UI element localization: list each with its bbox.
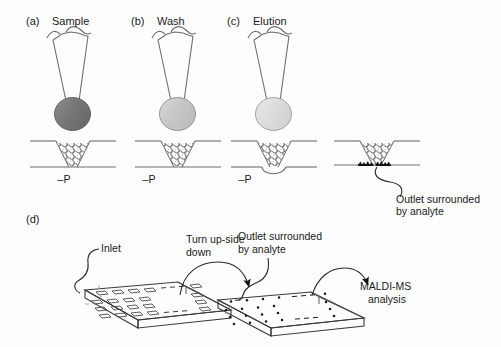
- microplate-inlet-side: [85, 282, 231, 328]
- turn-arrow: [180, 262, 249, 295]
- droplet-wash: [160, 98, 196, 131]
- outlet-plate-annotation-line2: by analyte: [238, 243, 286, 255]
- droplet-elution: [256, 98, 292, 131]
- well-row-4-ellipsis: [164, 311, 187, 313]
- figure-svg: –P (a) Sample: [0, 0, 501, 347]
- turn-label-line2: down: [186, 246, 211, 258]
- analyte-row-1-ellipsis: [292, 295, 315, 297]
- panel-a: –P (a) Sample: [26, 15, 116, 185]
- panel-tag-d: (d): [26, 213, 39, 225]
- pipette-a: [53, 32, 88, 101]
- panel-outlet-detail: Outlet surrounded by analyte: [334, 141, 480, 217]
- panel-tag-b: (b): [131, 15, 144, 27]
- panel-title-a: Sample: [52, 15, 89, 27]
- inlet-leader: [75, 249, 99, 293]
- droplet-sample: [55, 98, 91, 131]
- well-row-4: [99, 307, 211, 318]
- panel-d: (d): [26, 213, 411, 336]
- analyte-spot-row-3: [229, 308, 332, 319]
- figure-container: –P (a) Sample: [0, 0, 501, 347]
- pipette-c: [254, 32, 289, 101]
- panel-title-b: Wash: [157, 15, 185, 27]
- microplate-analyte-side: [218, 292, 364, 336]
- pressure-label-c: –P: [239, 173, 252, 185]
- maldi-label-line1: MALDI-MS: [360, 280, 411, 292]
- analyte-spot-row-2: [225, 301, 328, 312]
- panel-tag-a: (a): [26, 15, 39, 27]
- panel-title-c: Elution: [253, 15, 287, 27]
- pressure-label-b: –P: [143, 173, 156, 185]
- outlet-plate-leader: [235, 258, 269, 300]
- outlet-annotation-line1: Outlet surrounded: [396, 193, 480, 205]
- maldi-label-line2: analysis: [368, 293, 406, 305]
- pipette-b: [158, 32, 193, 101]
- turn-label-line1: Turn up-side: [186, 233, 245, 245]
- outlet-plate-annotation-line1: Outlet surrounded: [238, 230, 322, 242]
- pressure-label-a: –P: [58, 173, 71, 185]
- panel-tag-c: (c): [227, 15, 240, 27]
- inlet-label: Inlet: [101, 242, 121, 254]
- panel-b: –P (b) Wash: [131, 15, 221, 185]
- panel-c: –P (c) Elution: [227, 15, 317, 185]
- analyte-row-4-ellipsis: [295, 317, 318, 319]
- outlet-annotation-line2: by analyte: [396, 205, 444, 217]
- well-row-1-ellipsis: [161, 286, 184, 288]
